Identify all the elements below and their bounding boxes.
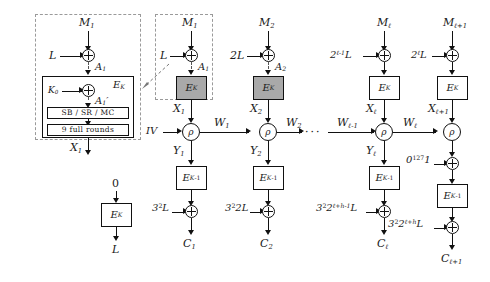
col-ell-out-xor-node bbox=[378, 205, 391, 218]
col-1-offset-in-label: L bbox=[160, 50, 167, 61]
col-ell1-a-arrow bbox=[449, 70, 455, 75]
col-ell1-decipher-box: EK-1 bbox=[437, 184, 468, 208]
col-1-out-xor-node bbox=[185, 205, 198, 218]
col-2-xor-node bbox=[262, 49, 275, 62]
l-gen-cipher-box: EK bbox=[101, 203, 132, 227]
col-ell1-out-xor-node bbox=[446, 221, 459, 234]
col-2-decipher-box: EK-1 bbox=[253, 166, 284, 190]
expansion-xor-node bbox=[82, 49, 95, 62]
col-1-x-label: X1 bbox=[173, 103, 185, 115]
col-ell1-ciphertext-label: Cℓ+1 bbox=[441, 253, 462, 265]
col-ell1-rho-node: ρ bbox=[443, 123, 461, 141]
col-1-xor-node bbox=[185, 49, 198, 62]
col-2-cipher-box: EK bbox=[253, 76, 284, 100]
col-ell1-xor-node bbox=[446, 49, 459, 62]
expansion-subkey-label: K0 bbox=[48, 86, 58, 96]
expansion-message-label: M1 bbox=[79, 17, 95, 29]
expansion-output-arrow bbox=[85, 150, 91, 155]
col-2-a-label: A2 bbox=[275, 62, 286, 73]
l-gen-output-arrow bbox=[113, 236, 119, 241]
l-gen-output-label: L bbox=[112, 244, 119, 255]
expansion-a1prime-label: A1′ bbox=[95, 96, 108, 107]
col-2-ciphertext-label: C2 bbox=[260, 238, 273, 250]
col-2-offset-out-label: 322L bbox=[225, 203, 248, 213]
col-2-offset-in-label: 2L bbox=[230, 50, 244, 61]
col-1-rho-node: ρ bbox=[182, 123, 200, 141]
diagram-canvas: M1 L A1 EK K0 A1′ SB / SR / MC 9 full ro… bbox=[0, 0, 490, 282]
ellipsis-continuation-wire bbox=[328, 132, 374, 133]
col-2-rho-node: ρ bbox=[259, 123, 277, 141]
l-gen-input-label: 0 bbox=[112, 178, 119, 189]
col-ell-rho-node: ρ bbox=[375, 123, 393, 141]
col-ell-y-label: Yℓ bbox=[366, 145, 376, 157]
expansion-full-rounds-box: 9 full rounds bbox=[47, 124, 129, 136]
col-ell-message-label: Mℓ bbox=[377, 17, 391, 29]
expansion-output-label: X1 bbox=[70, 142, 82, 154]
col-2-a-arrow bbox=[265, 70, 271, 75]
col-2-message-label: M2 bbox=[259, 17, 275, 29]
col-1-decipher-box: EK-1 bbox=[176, 166, 207, 190]
col-1-a-label: A1 bbox=[198, 62, 209, 73]
col-ell-ciphertext-label: Cℓ bbox=[377, 238, 388, 250]
col-1-message-label: M1 bbox=[182, 17, 198, 29]
col-1-w-label: W1 bbox=[214, 117, 230, 129]
col-ell-a-arrow bbox=[381, 70, 387, 75]
col-ell-w-arrow bbox=[433, 128, 438, 134]
iv-label: IV bbox=[146, 126, 157, 136]
col-1-w-arrow bbox=[246, 128, 251, 134]
col-1-ciphertext-label: C1 bbox=[183, 238, 196, 250]
expansion-round-op-box: SB / SR / MC bbox=[47, 107, 129, 119]
chain-ellipsis: ··· bbox=[305, 126, 322, 139]
expansion-inner-xor-node bbox=[82, 84, 95, 97]
col-ell-w-wire bbox=[393, 132, 436, 133]
expansion-a1-label: A1 bbox=[95, 62, 106, 73]
col-1-y-arrow bbox=[188, 160, 194, 165]
col-1-w-wire bbox=[200, 132, 249, 133]
col-ell1-offset-out-label: 322ℓ+hL bbox=[388, 219, 423, 229]
col-ell-ciphertext-arrow bbox=[381, 230, 387, 235]
col-ell1-cipher-box: EK bbox=[437, 76, 468, 100]
col-1-offset-out-label: 32L bbox=[152, 203, 169, 213]
col-ell-y-arrow bbox=[381, 160, 387, 165]
col-ell-w-label: Wℓ bbox=[403, 117, 417, 129]
expansion-a1-arrow bbox=[85, 70, 91, 75]
col-2-x-label: X2 bbox=[250, 103, 262, 115]
col-ell1-message-label: Mℓ+1 bbox=[443, 17, 467, 29]
col-1-y-label: Y1 bbox=[173, 145, 185, 157]
col-ell-x-label: Xℓ bbox=[366, 103, 377, 115]
expansion-offset-wire bbox=[60, 56, 82, 57]
col-ell-offset-in-label: 2ℓ-1L bbox=[330, 50, 352, 60]
col-ell-decipher-box: EK-1 bbox=[369, 166, 400, 190]
col-2-ciphertext-arrow bbox=[265, 230, 271, 235]
col-ell1-x-label: Xℓ+1 bbox=[428, 103, 449, 115]
col-ell-xor-node bbox=[378, 49, 391, 62]
col-ell1-ciphertext-arrow bbox=[449, 245, 455, 250]
col-ell1-const-xor-node bbox=[446, 157, 459, 170]
col-1-cipher-box: EK bbox=[176, 76, 207, 100]
col-1-a-arrow bbox=[188, 70, 194, 75]
col-2-y-label: Y2 bbox=[250, 145, 262, 157]
col-2-w-label: W2 bbox=[286, 117, 302, 129]
expansion-cipher-label: EK bbox=[113, 80, 125, 91]
col-ell-offset-out-label: 322ℓ+h-1L bbox=[316, 203, 357, 213]
col-2-y-arrow bbox=[265, 160, 271, 165]
final-constant-label: 01271 bbox=[406, 155, 431, 165]
col-1-ciphertext-arrow bbox=[188, 230, 194, 235]
col-ell-cipher-box: EK bbox=[369, 76, 400, 100]
col-ell-w-in-label: Wℓ-1 bbox=[337, 117, 358, 129]
expansion-offset-label: L bbox=[49, 50, 56, 61]
col-ell1-offset-in-label: 2ℓL bbox=[411, 50, 427, 60]
col-2-out-xor-node bbox=[262, 205, 275, 218]
